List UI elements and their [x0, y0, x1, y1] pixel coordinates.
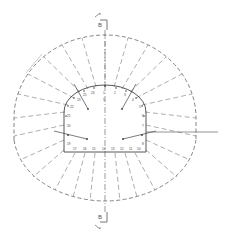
hole-label: 19 — [67, 142, 71, 146]
section-label-bottom: B — [98, 214, 102, 220]
section-marker-bottom: B — [95, 212, 107, 229]
hole-label: 7 — [142, 124, 144, 128]
hole-label: 5 — [103, 98, 105, 102]
hole-label: 16 — [83, 147, 87, 151]
hole-label: 20 — [67, 124, 71, 128]
hole-label: 3 — [124, 93, 126, 97]
hole-label: 14 — [102, 147, 106, 151]
hole-label: 13 — [111, 147, 115, 151]
hole-label: 8 — [142, 142, 144, 146]
hole-label: 6 — [142, 114, 144, 118]
section-marker-top: B — [95, 13, 107, 30]
hole-label: 24 — [91, 91, 95, 95]
tunnel-section-diagram: 24 25 1 2 3 23 22 21 20 19 4 5 6 7 8 17 … — [0, 0, 230, 244]
hole-label: 15 — [92, 147, 96, 151]
hole-label: 1 — [103, 91, 105, 95]
hole-label: 21 — [67, 114, 71, 118]
hole-label: 10 — [137, 147, 141, 151]
hole-label: 17 — [73, 147, 77, 151]
hole-label: 5 — [139, 105, 141, 109]
hole-labels: 24 25 1 2 3 23 22 21 20 19 4 5 6 7 8 17 … — [67, 91, 144, 151]
hole-label: 22 — [70, 105, 74, 109]
hole-label: 25 — [83, 93, 87, 97]
hole-label: 12 — [120, 147, 124, 151]
faint-bracket — [26, 54, 42, 73]
section-label-top: B — [98, 22, 102, 28]
hole-label: 4 — [132, 98, 134, 102]
hole-label: 23 — [77, 98, 81, 102]
hole-label: 11 — [129, 147, 133, 151]
hole-label: 2 — [114, 91, 116, 95]
